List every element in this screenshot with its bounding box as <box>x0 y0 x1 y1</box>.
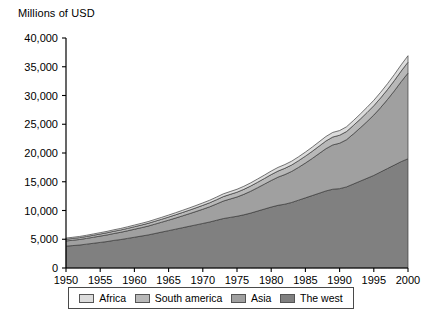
y-tick-label: 40,000 <box>24 32 58 44</box>
y-tick-label: 30,000 <box>24 90 58 102</box>
x-tick-label: 1965 <box>156 274 180 285</box>
x-tick-label: 2000 <box>396 274 420 285</box>
stacked-area-chart: Millions of USD 05,00010,00015,00020,000… <box>0 0 422 323</box>
legend-swatch-the-west <box>280 294 295 303</box>
legend-label-the-west: The west <box>300 293 343 304</box>
y-tick-label: 10,000 <box>24 205 58 217</box>
y-tick-label: 0 <box>52 262 58 274</box>
x-tick-label: 1985 <box>293 274 317 285</box>
legend-swatch-south-america <box>135 294 150 303</box>
chart-canvas: 05,00010,00015,00020,00025,00030,00035,0… <box>0 0 422 285</box>
x-tick-label: 1980 <box>259 274 283 285</box>
legend-item-the-west[interactable]: The west <box>280 293 343 304</box>
chart-legend: Africa South america Asia The west <box>68 287 354 309</box>
x-tick-label: 1955 <box>88 274 112 285</box>
y-tick-label: 5,000 <box>30 233 58 245</box>
legend-swatch-asia <box>231 294 246 303</box>
legend-label-south-america: South america <box>155 293 223 304</box>
x-tick-label: 1975 <box>225 274 249 285</box>
y-tick-label: 25,000 <box>24 118 58 130</box>
legend-swatch-africa <box>79 294 94 303</box>
x-tick-label: 1960 <box>122 274 146 285</box>
y-tick-label: 15,000 <box>24 176 58 188</box>
legend-item-africa[interactable]: Africa <box>79 293 126 304</box>
x-tick-label: 1970 <box>191 274 215 285</box>
legend-item-asia[interactable]: Asia <box>231 293 271 304</box>
x-tick-label: 1995 <box>362 274 386 285</box>
legend-item-south-america[interactable]: South america <box>135 293 223 304</box>
x-tick-label: 1990 <box>327 274 351 285</box>
y-tick-label: 20,000 <box>24 147 58 159</box>
y-tick-label: 35,000 <box>24 61 58 73</box>
legend-label-africa: Africa <box>99 293 126 304</box>
x-tick-label: 1950 <box>54 274 78 285</box>
legend-label-asia: Asia <box>251 293 271 304</box>
plot-area: 05,00010,00015,00020,00025,00030,00035,0… <box>0 0 422 285</box>
